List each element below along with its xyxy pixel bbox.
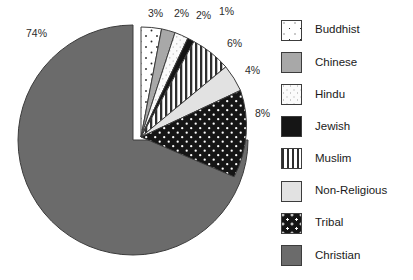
pie-label-hindu: 2% (196, 10, 211, 21)
legend-item-chinese[interactable]: Chinese (281, 46, 413, 78)
legend-item-muslim[interactable]: Muslim (281, 143, 413, 175)
pie-label-chinese: 2% (174, 8, 189, 19)
legend-item-christian[interactable]: Christian (281, 239, 413, 271)
legend-label-hindu: Hindu (315, 89, 345, 101)
pie-plot-area: 74% 3% 2% 2% 1% 6% 4% 8% (0, 0, 275, 280)
pie-label-muslim: 6% (227, 38, 242, 49)
legend-swatch-muslim (281, 148, 302, 169)
legend-item-non-religious[interactable]: Non-Religious (281, 175, 413, 207)
legend-swatch-buddhist (281, 20, 302, 41)
legend-item-buddhist[interactable]: Buddhist (281, 14, 413, 46)
legend-item-tribal[interactable]: Tribal (281, 207, 413, 239)
legend-label-chinese: Chinese (315, 57, 357, 69)
legend-swatch-chinese (281, 52, 302, 73)
legend-label-christian: Christian (315, 250, 360, 262)
legend-label-buddhist: Buddhist (315, 24, 360, 36)
legend-item-hindu[interactable]: Hindu (281, 78, 413, 110)
legend-item-jewish[interactable]: Jewish (281, 111, 413, 143)
pie-label-buddhist: 3% (148, 8, 163, 19)
pie-label-tribal: 8% (255, 108, 270, 119)
legend-swatch-christian (281, 245, 302, 266)
legend-swatch-tribal (281, 213, 302, 234)
pie-label-jewish: 1% (219, 6, 234, 17)
legend-swatch-jewish (281, 116, 302, 137)
pie-label-non-religious: 4% (245, 65, 260, 76)
legend-label-muslim: Muslim (315, 153, 351, 165)
legend-label-non-religious: Non-Religious (315, 185, 387, 197)
pie-label-christian: 74% (26, 28, 47, 39)
pie-chart: 74% 3% 2% 2% 1% 6% 4% 8% Buddhist Chines… (0, 0, 413, 280)
legend-label-tribal: Tribal (315, 217, 343, 229)
legend-label-jewish: Jewish (315, 121, 350, 133)
legend-swatch-non-religious (281, 181, 302, 202)
legend: Buddhist Chinese Hindu Jewish Muslim Non… (281, 14, 413, 272)
legend-swatch-hindu (281, 84, 302, 105)
